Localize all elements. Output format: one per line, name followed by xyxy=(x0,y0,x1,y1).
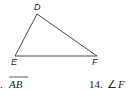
question-14-angle: F xyxy=(117,78,125,90)
question-13-segment: AB xyxy=(8,78,23,90)
vertex-label-e: E xyxy=(11,57,18,67)
vertex-label-f: F xyxy=(92,57,98,67)
triangle-def xyxy=(15,14,97,56)
vertex-label-d: D xyxy=(34,2,41,12)
angle-icon: ∠ xyxy=(107,78,117,90)
triangle-def-figure: D E F . AB 14. ∠ F xyxy=(0,0,132,91)
question-13-number: . xyxy=(0,78,3,90)
question-14-number: 14. xyxy=(89,78,103,90)
